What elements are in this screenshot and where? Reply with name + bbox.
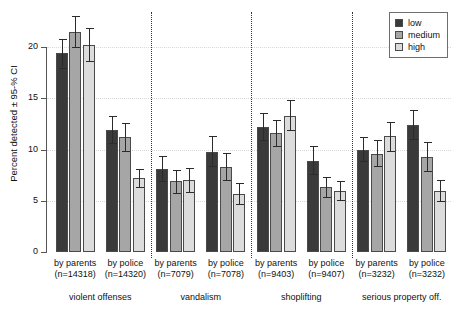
errorbar-high-7 xyxy=(440,180,441,201)
bar-high-0 xyxy=(83,45,95,252)
x-cluster-source-3: by police xyxy=(201,258,251,269)
gridline-15 xyxy=(47,98,451,99)
errorbar-high-6-cap-lower xyxy=(387,151,395,152)
x-cluster-source-5: by police xyxy=(301,258,351,269)
group-separator-1 xyxy=(251,12,252,258)
errorbar-high-4 xyxy=(290,100,291,130)
errorbar-medium-2-cap-lower xyxy=(173,193,181,194)
errorbar-medium-2 xyxy=(176,170,177,193)
y-tick-20 xyxy=(41,47,46,48)
y-tick-15 xyxy=(41,98,46,99)
errorbar-high-2-cap-lower xyxy=(186,192,194,193)
group-separator-2 xyxy=(352,12,353,258)
errorbar-medium-4-cap-lower xyxy=(273,146,281,147)
chart-root: Percent detected ± 95-% CI 05101520 by p… xyxy=(0,0,457,314)
x-cluster-source-4: by parents xyxy=(251,258,301,269)
errorbar-low-6-cap-lower xyxy=(360,161,368,162)
errorbar-high-3 xyxy=(239,183,240,204)
errorbar-medium-6-cap-upper xyxy=(374,140,382,141)
errorbar-high-1-cap-upper xyxy=(136,169,144,170)
x-cluster-label-7: by police(n=3232) xyxy=(402,258,452,280)
errorbar-high-1 xyxy=(139,169,140,187)
bar-medium-0 xyxy=(69,32,81,252)
errorbar-low-2-cap-upper xyxy=(159,156,167,157)
errorbar-low-3-cap-lower xyxy=(209,166,217,167)
y-tick-label-15: 15 xyxy=(0,93,38,102)
x-cluster-label-0: by parents(n=14318) xyxy=(50,258,100,280)
bar-medium-6 xyxy=(371,154,383,252)
errorbar-high-0-cap-upper xyxy=(86,28,94,29)
x-cluster-n-5: (n=9407) xyxy=(301,269,351,280)
y-tick-label-20: 20 xyxy=(0,42,38,51)
x-cluster-source-0: by parents xyxy=(50,258,100,269)
errorbar-low-4 xyxy=(263,113,264,141)
errorbar-high-3-cap-upper xyxy=(236,183,244,184)
x-group-label-0: violent offenses xyxy=(50,292,151,302)
errorbar-high-7-cap-upper xyxy=(437,180,445,181)
y-tick-10 xyxy=(41,150,46,151)
errorbar-low-1-cap-lower xyxy=(109,143,117,144)
errorbar-high-6-cap-upper xyxy=(387,122,395,123)
errorbar-low-1-cap-upper xyxy=(109,116,117,117)
errorbar-medium-3 xyxy=(226,153,227,181)
x-cluster-label-6: by parents(n=3232) xyxy=(352,258,402,280)
x-cluster-n-2: (n=7079) xyxy=(151,269,201,280)
bar-low-4 xyxy=(257,127,269,252)
errorbar-medium-6-cap-lower xyxy=(374,166,382,167)
x-cluster-source-6: by parents xyxy=(352,258,402,269)
x-cluster-n-6: (n=3232) xyxy=(352,269,402,280)
errorbar-low-6-cap-upper xyxy=(360,137,368,138)
bar-high-6 xyxy=(384,136,396,252)
errorbar-medium-0-cap-upper xyxy=(72,16,80,17)
errorbar-low-0-cap-lower xyxy=(59,68,67,69)
errorbar-low-4-cap-upper xyxy=(260,113,268,114)
legend-item-medium: medium xyxy=(395,29,440,41)
x-group-label-1: vandalism xyxy=(151,292,252,302)
errorbar-low-5-cap-lower xyxy=(310,174,318,175)
legend-label-high: high xyxy=(408,43,425,52)
x-cluster-source-7: by police xyxy=(402,258,452,269)
errorbar-medium-0 xyxy=(75,16,76,47)
x-cluster-n-7: (n=3232) xyxy=(402,269,452,280)
errorbar-low-2 xyxy=(162,156,163,182)
errorbar-high-6 xyxy=(390,122,391,151)
x-cluster-n-0: (n=14318) xyxy=(50,269,100,280)
errorbar-low-0 xyxy=(62,39,63,68)
y-tick-label-10: 10 xyxy=(0,145,38,154)
bar-high-1 xyxy=(133,178,145,252)
errorbar-medium-4-cap-upper xyxy=(273,120,281,121)
x-cluster-source-2: by parents xyxy=(151,258,201,269)
bar-low-6 xyxy=(357,150,369,253)
bar-medium-4 xyxy=(270,133,282,252)
errorbar-high-5-cap-lower xyxy=(337,200,345,201)
y-tick-0 xyxy=(41,252,46,253)
legend-item-low: low xyxy=(395,17,440,29)
errorbar-high-1-cap-lower xyxy=(136,187,144,188)
errorbar-low-5 xyxy=(313,146,314,174)
errorbar-high-2-cap-upper xyxy=(186,168,194,169)
errorbar-high-7-cap-lower xyxy=(437,201,445,202)
x-cluster-label-5: by police(n=9407) xyxy=(301,258,351,280)
legend-label-low: low xyxy=(408,19,422,28)
legend: low medium high xyxy=(389,12,448,58)
errorbar-low-2-cap-lower xyxy=(159,181,167,182)
errorbar-medium-0-cap-lower xyxy=(72,47,80,48)
errorbar-high-3-cap-lower xyxy=(236,204,244,205)
y-tick-5 xyxy=(41,201,46,202)
x-cluster-label-1: by police(n=14320) xyxy=(100,258,150,280)
errorbar-low-7 xyxy=(413,110,414,140)
errorbar-low-1 xyxy=(112,116,113,144)
errorbar-low-4-cap-lower xyxy=(260,140,268,141)
errorbar-high-4-cap-upper xyxy=(287,100,295,101)
errorbar-medium-5-cap-lower xyxy=(323,197,331,198)
bar-low-0 xyxy=(56,53,68,252)
errorbar-low-5-cap-upper xyxy=(310,146,318,147)
y-tick-label-5: 5 xyxy=(0,196,38,205)
errorbar-low-7-cap-upper xyxy=(410,110,418,111)
errorbar-medium-2-cap-upper xyxy=(173,170,181,171)
legend-item-high: high xyxy=(395,41,440,53)
x-cluster-n-1: (n=14320) xyxy=(100,269,150,280)
errorbar-medium-1 xyxy=(125,123,126,151)
errorbar-low-3 xyxy=(212,136,213,166)
errorbar-high-4-cap-lower xyxy=(287,130,295,131)
